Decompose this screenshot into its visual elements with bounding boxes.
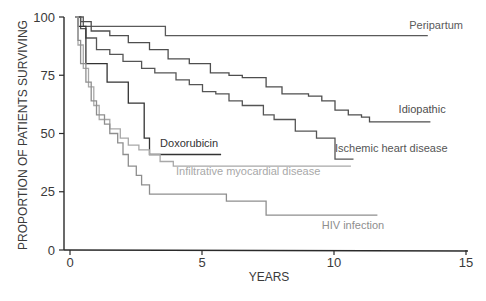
series-labels: PeripartumIdiopathicIschemic heart disea… [160, 19, 463, 231]
series-line-hiv-infection [75, 17, 377, 215]
series-label-doxorubicin: Doxorubicin [160, 137, 218, 149]
series-line-doxorubicin [78, 17, 221, 155]
x-tick-label: 10 [327, 255, 341, 270]
x-tick-label: 0 [66, 255, 73, 270]
series-label-hiv-infection: HIV infection [322, 219, 384, 231]
y-ticks: 0255075100 [33, 10, 64, 258]
x-tick-label: 15 [459, 255, 473, 270]
y-tick-label: 0 [48, 243, 55, 258]
x-axis-line [64, 250, 468, 251]
series-label-idiopathic: Idiopathic [399, 103, 447, 115]
y-axis-title: PROPORTION OF PATIENTS SURVIVING [16, 20, 30, 250]
series-label-peripartum: Peripartum [409, 19, 463, 31]
series-lines [75, 17, 430, 215]
x-ticks: 051015 [66, 250, 473, 270]
y-tick-label: 75 [41, 68, 55, 83]
series-label-ischemic-heart-disease: Ischemic heart disease [335, 142, 448, 154]
x-tick-label: 5 [198, 255, 205, 270]
series-label-infiltrative-myocardial-disease: Infiltrative myocardial disease [176, 165, 320, 177]
x-axis-title: YEARS [249, 270, 290, 284]
y-tick-label: 25 [41, 184, 55, 199]
y-tick-label: 50 [41, 126, 55, 141]
series-line-peripartum [75, 17, 428, 36]
y-tick-label: 100 [33, 10, 55, 25]
survival-chart: 0255075100 051015 PROPORTION OF PATIENTS… [0, 0, 486, 301]
